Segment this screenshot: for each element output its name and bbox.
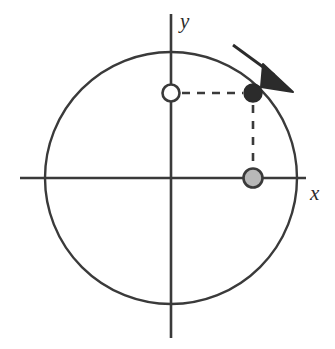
- circle-diagram-figure: y x: [0, 0, 335, 349]
- x-axis-label: x: [309, 181, 320, 205]
- diagram-canvas: y x: [0, 0, 335, 349]
- direction-arrow-head: [261, 64, 293, 92]
- open-point-on-y-axis: [163, 85, 180, 102]
- gray-point-on-x-axis: [244, 169, 263, 188]
- y-axis-label: y: [178, 9, 190, 33]
- filled-point-on-circle: [244, 84, 262, 102]
